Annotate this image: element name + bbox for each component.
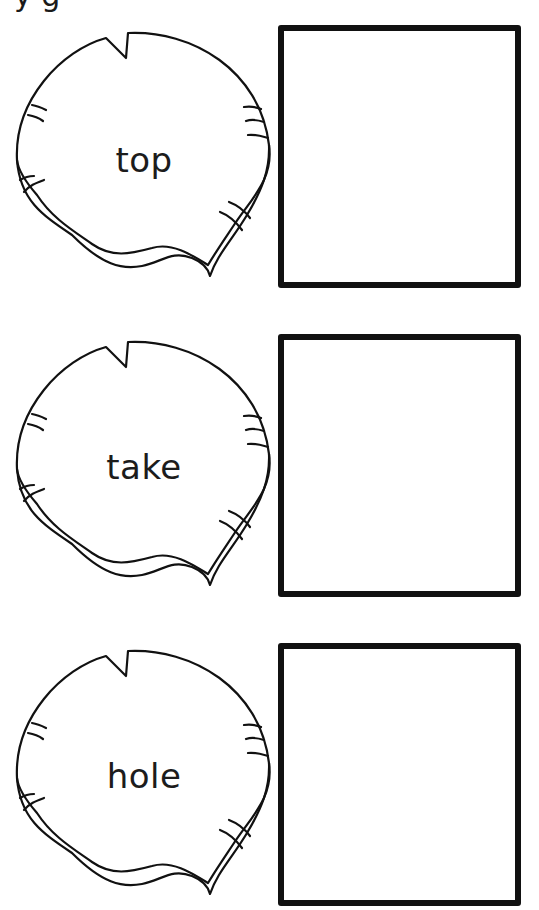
answer-box-3[interactable] [278,643,521,906]
word-label: top [0,140,288,180]
instruction-text-cut-off: y g [0,0,539,8]
answer-box-2[interactable] [278,334,521,597]
answer-box-1[interactable] [278,25,521,288]
word-label: take [0,447,288,487]
word-label: hole [0,756,288,796]
